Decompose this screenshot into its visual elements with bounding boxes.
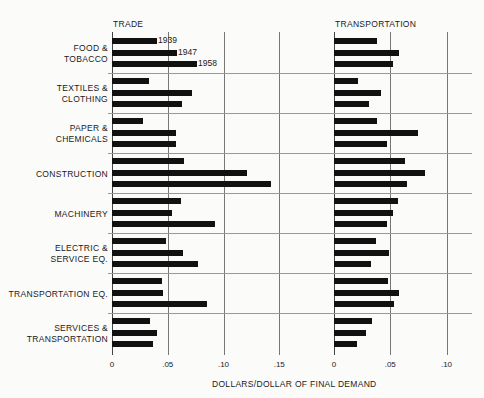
bar-1958: [334, 181, 407, 187]
bar-1958: [334, 101, 369, 107]
bar-1939: [334, 318, 372, 324]
bar-1939: [334, 118, 377, 124]
bar-1947: [112, 130, 176, 136]
bar-1958: [112, 141, 176, 147]
category-label: MACHINERY: [8, 209, 108, 220]
bar-1947: [334, 170, 425, 176]
bar-1939: [334, 78, 358, 84]
bar-1958: [112, 101, 182, 107]
bar-1958: [112, 301, 207, 307]
group-separator: [330, 313, 472, 314]
bar-1939: [112, 78, 149, 84]
bar-1958: [334, 61, 393, 67]
group-separator: [108, 113, 335, 114]
bar-1947: [112, 50, 177, 56]
bar-1958: [334, 301, 394, 307]
bar-1939: [334, 198, 398, 204]
year-label: 1958: [198, 58, 217, 68]
bar-1958: [112, 341, 153, 347]
bar-1947: [334, 290, 399, 296]
group-separator: [108, 153, 335, 154]
bar-1947: [334, 250, 389, 256]
year-label: 1947: [178, 47, 197, 57]
category-label: FOOD &TOBACCO: [8, 43, 108, 65]
bar-1939: [334, 38, 377, 44]
bar-1947: [334, 210, 393, 216]
bar-1947: [334, 90, 381, 96]
bar-1939: [112, 158, 184, 164]
group-separator: [330, 73, 472, 74]
bar-1939: [112, 238, 166, 244]
x-tick-label: 0: [110, 360, 114, 369]
bar-1939: [334, 278, 388, 284]
transportation-panel-title: TRANSPORTATION: [335, 19, 416, 29]
group-separator: [108, 73, 335, 74]
group-separator: [330, 113, 472, 114]
category-label: TRANSPORTATION EQ.: [8, 289, 108, 300]
x-tick-label: .05: [385, 360, 396, 369]
category-label: ELECTRIC &SERVICE EQ.: [8, 243, 108, 265]
bar-1958: [334, 341, 357, 347]
category-label: TEXTILES &CLOTHING: [8, 83, 108, 105]
bar-1958: [334, 261, 371, 267]
bar-1947: [334, 50, 399, 56]
bar-1939: [112, 118, 143, 124]
bar-1958: [112, 261, 198, 267]
group-separator: [108, 273, 335, 274]
bar-1939: [112, 318, 150, 324]
trade-panel-title: TRADE: [113, 19, 143, 29]
x-axis-label: DOLLARS/DOLLAR OF FINAL DEMAND: [212, 379, 377, 389]
x-tick-label: 0: [332, 360, 336, 369]
category-label: SERVICES &TRANSPORTATION: [8, 323, 108, 345]
bar-1958: [112, 221, 215, 227]
group-separator: [330, 193, 472, 194]
bar-1947: [112, 250, 183, 256]
bar-1947: [334, 330, 366, 336]
bar-1939: [334, 158, 405, 164]
bar-1939: [112, 198, 181, 204]
group-separator: [108, 233, 335, 234]
bar-1947: [112, 170, 247, 176]
category-label: CONSTRUCTION: [8, 169, 108, 180]
bar-1958: [112, 181, 271, 187]
group-separator: [330, 153, 472, 154]
bar-1947: [112, 330, 157, 336]
bar-1947: [112, 290, 163, 296]
x-tick-label: .05: [162, 360, 173, 369]
category-label: PAPER &CHEMICALS: [8, 123, 108, 145]
group-separator: [330, 273, 472, 274]
year-label: 1939: [158, 35, 177, 45]
bar-1939: [112, 278, 162, 284]
group-separator: [108, 193, 335, 194]
bar-1939: [334, 238, 376, 244]
x-tick-label: .15: [274, 360, 285, 369]
bar-1958: [334, 141, 387, 147]
bar-1958: [334, 221, 387, 227]
group-separator: [108, 313, 335, 314]
bar-1947: [334, 130, 418, 136]
bar-1947: [112, 90, 192, 96]
bar-1939: [112, 38, 157, 44]
bar-1947: [112, 210, 172, 216]
group-separator: [330, 233, 472, 234]
x-tick-label: .10: [218, 360, 229, 369]
bar-1958: [112, 61, 197, 67]
x-tick-label: .10: [441, 360, 452, 369]
